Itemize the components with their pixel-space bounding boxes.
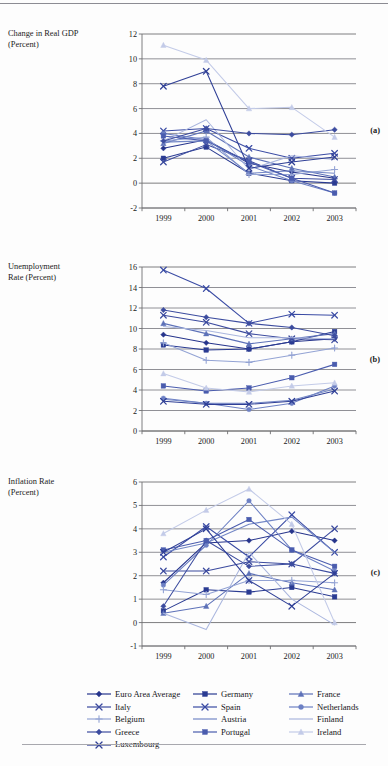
svg-text:6: 6 (133, 105, 137, 114)
panel-a-axis-title-line1: Change in Real GDP (8, 28, 112, 39)
legend-marker-plus-icon (86, 713, 112, 725)
svg-text:1: 1 (133, 595, 137, 604)
legend-marker-x-icon (192, 701, 218, 713)
legend-marker-diamond-icon (86, 726, 112, 738)
svg-text:6: 6 (133, 366, 137, 375)
legend-item: Italy (86, 701, 192, 714)
svg-text:6: 6 (133, 478, 137, 487)
svg-text:2002: 2002 (284, 437, 300, 446)
svg-text:8: 8 (133, 345, 137, 354)
panel-a-axis-title-line2: (Percent) (8, 39, 112, 50)
legend-item: Portugal (192, 726, 288, 739)
top-divider (0, 3, 388, 4)
panel-b-axis-title-line2: Rate (Percent) (8, 272, 112, 283)
chart-legend: Euro Area AverageGermanyFranceItalySpain… (0, 688, 388, 752)
svg-text:0: 0 (133, 179, 137, 188)
svg-text:2000: 2000 (198, 437, 214, 446)
svg-text:8: 8 (133, 80, 137, 89)
legend-item: Netherlands (288, 701, 382, 714)
svg-text:4: 4 (133, 129, 137, 138)
svg-text:2: 2 (133, 407, 137, 416)
svg-text:4: 4 (133, 525, 137, 534)
legend-item: Finland (288, 713, 382, 726)
legend-label: Austria (221, 713, 246, 726)
svg-text:2: 2 (133, 572, 137, 581)
svg-text:-1: -1 (130, 642, 137, 651)
panel-b-axis-title: Unemployment Rate (Percent) (8, 261, 112, 284)
svg-text:2000: 2000 (198, 214, 214, 223)
legend-label: Finland (317, 713, 343, 726)
svg-text:14: 14 (129, 284, 137, 293)
legend-marker-triangle-icon (288, 726, 314, 738)
legend-item: Greece (86, 726, 192, 739)
legend-label: Spain (221, 701, 241, 714)
legend-item: Euro Area Average (86, 688, 192, 701)
svg-text:0: 0 (133, 619, 137, 628)
svg-text:1999: 1999 (155, 214, 171, 223)
gdp-line-chart: -202468101219992000200120022003 (118, 30, 370, 230)
panel-c-axis-title-line2: (Percent) (8, 487, 112, 498)
legend-item: Austria (192, 713, 288, 726)
legend-label: Ireland (317, 726, 341, 739)
svg-text:16: 16 (129, 263, 137, 272)
panel-c-axis-title-line1: Inflation Rate (8, 476, 112, 487)
panel-unemployment: Unemployment Rate (Percent) (b) 02468101… (0, 255, 388, 455)
svg-text:12: 12 (129, 30, 137, 39)
svg-text:10: 10 (129, 55, 137, 64)
legend-label: Greece (115, 726, 139, 739)
legend-marker-triangle-icon (288, 688, 314, 700)
svg-text:2001: 2001 (241, 437, 257, 446)
legend-label: Belgium (115, 713, 145, 726)
svg-text:2001: 2001 (241, 214, 257, 223)
svg-text:-2: -2 (130, 204, 137, 213)
bottom-divider (22, 744, 366, 745)
legend-label: Italy (115, 701, 131, 714)
svg-text:2002: 2002 (284, 214, 300, 223)
svg-text:4: 4 (133, 386, 137, 395)
panel-inflation: Inflation Rate (Percent) (c) -1012345619… (0, 470, 388, 670)
svg-text:12: 12 (129, 304, 137, 313)
panel-b-axis-title-line1: Unemployment (8, 261, 112, 272)
svg-text:2003: 2003 (326, 652, 342, 661)
panel-gdp: Change in Real GDP (Percent) (a) -202468… (0, 22, 388, 230)
svg-text:1999: 1999 (155, 437, 171, 446)
legend-label: Euro Area Average (115, 688, 180, 701)
legend-marker-circle-icon (288, 701, 314, 713)
legend-label: France (317, 688, 340, 701)
legend-marker-square-icon (192, 726, 218, 738)
svg-text:3: 3 (133, 548, 137, 557)
svg-text:2003: 2003 (326, 437, 342, 446)
panel-a-label: (a) (370, 126, 380, 135)
panel-a-axis-title: Change in Real GDP (Percent) (8, 28, 112, 51)
legend-item: France (288, 688, 382, 701)
legend-marker-x-icon (86, 701, 112, 713)
legend-grid: Euro Area AverageGermanyFranceItalySpain… (86, 688, 382, 751)
svg-text:2001: 2001 (241, 652, 257, 661)
legend-label: Netherlands (317, 701, 359, 714)
svg-text:2002: 2002 (284, 652, 300, 661)
svg-text:2003: 2003 (326, 214, 342, 223)
legend-item: Belgium (86, 713, 192, 726)
legend-marker-square-icon (192, 688, 218, 700)
svg-text:5: 5 (133, 501, 137, 510)
legend-label: Germany (221, 688, 253, 701)
legend-marker-line-icon (192, 713, 218, 725)
svg-text:0: 0 (133, 427, 137, 436)
legend-item: Germany (192, 688, 288, 701)
panel-b-label: (b) (370, 355, 380, 364)
legend-marker-line-icon (288, 713, 314, 725)
panel-c-axis-title: Inflation Rate (Percent) (8, 476, 112, 499)
figure-page: Change in Real GDP (Percent) (a) -202468… (0, 0, 388, 766)
legend-item: Spain (192, 701, 288, 714)
legend-item: Ireland (288, 726, 382, 739)
svg-text:2: 2 (133, 154, 137, 163)
svg-text:1999: 1999 (155, 652, 171, 661)
panel-c-label: (c) (371, 568, 380, 577)
svg-text:2000: 2000 (198, 652, 214, 661)
inflation-line-chart: -1012345619992000200120022003 (118, 478, 370, 668)
svg-text:10: 10 (129, 325, 137, 334)
unemployment-line-chart: 024681012141619992000200120022003 (118, 263, 370, 453)
legend-label: Portugal (221, 726, 250, 739)
legend-marker-diamond-icon (86, 688, 112, 700)
